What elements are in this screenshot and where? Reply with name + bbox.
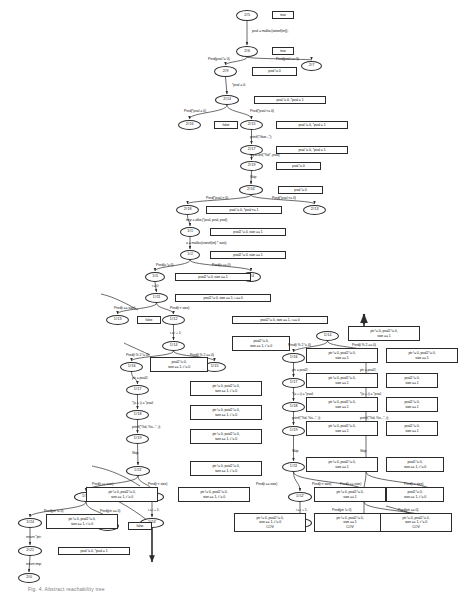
cfg-node[interactable]: 1#12 bbox=[162, 315, 185, 325]
abstraction-box: ptr != 0, pval2 != 0, size == 1, i != 0 … bbox=[380, 513, 452, 532]
cfg-node[interactable]: 1#5 bbox=[145, 272, 165, 282]
cfg-edge bbox=[227, 105, 252, 119]
abstraction-box: ptr != 0, pval2 != 0, size == 1, i != 0 bbox=[86, 487, 158, 502]
edge-label: return *ptr; bbox=[26, 536, 41, 540]
edge-label: pval = malloc(sizeof(int)); bbox=[252, 30, 288, 34]
cfg-node[interactable]: 1#24 bbox=[18, 518, 42, 528]
edge-label: printf("%d, %s...", i); bbox=[132, 426, 161, 430]
edge-label: Pred(pval == 0) bbox=[276, 58, 299, 62]
edge-label: Pred(i < size) bbox=[148, 483, 167, 487]
edge-label: Pred(i % 2 != 0) bbox=[126, 354, 149, 358]
edge-label: Skip bbox=[132, 452, 138, 456]
edge-label: printf("%d, %s...", i); bbox=[360, 417, 389, 421]
cfg-node[interactable]: 1#12' bbox=[288, 492, 312, 502]
cfg-node[interactable]: 1#19 bbox=[126, 434, 149, 444]
cfg-node[interactable]: 2#5 bbox=[236, 10, 258, 21]
cfg-node[interactable]: 2#21 bbox=[18, 546, 42, 556]
edge-label: Pred(ptr == 0) bbox=[398, 509, 418, 513]
abstraction-box: pval2 != 0, size == 1, i == 0 bbox=[175, 294, 271, 302]
abstraction-box: ptr != 0, pval2 != 0, size == 1, i != 0 bbox=[190, 461, 262, 476]
edge-label: Pred(a != 0) bbox=[156, 264, 173, 268]
cfg-node[interactable]: 1#11' bbox=[126, 466, 150, 476]
edge-label: Pred(i == size) bbox=[340, 483, 361, 487]
cfg-node[interactable]: 2#0 bbox=[18, 573, 40, 583]
abstraction-box: ptr != 0, pval2 != 0, size == 1 COV bbox=[314, 513, 386, 532]
cfg-node[interactable]: 1#14 bbox=[162, 341, 185, 351]
abstraction-box: pval2 != 0, size == 1, i != 0 bbox=[150, 357, 208, 372]
edge-label: Skip bbox=[360, 450, 366, 454]
edge-label: i = i + 1; bbox=[170, 332, 181, 336]
cfg-node[interactable]: 2#7 bbox=[301, 61, 322, 71]
abstraction-box: ptr != 0, pval2 != 0, size == 1 bbox=[306, 397, 378, 412]
edge-label: ptr = pval2; bbox=[360, 369, 376, 373]
abstraction-box: true bbox=[272, 11, 294, 19]
edge-label: printf("Give..."); bbox=[250, 136, 272, 140]
cfg-edge bbox=[294, 472, 301, 491]
edge-label: a = malloc(sizeof(int) * size); bbox=[186, 242, 227, 246]
edge-label: Pred(*pval <= 0) bbox=[250, 110, 274, 114]
edge-label: *(a + i) = *pval; bbox=[132, 402, 153, 406]
edge-label: Pred(a == 0) bbox=[212, 264, 230, 268]
cfg-node[interactable]: 1#16 bbox=[120, 362, 143, 372]
abstraction-box: pval != 0, *pval <= 1 bbox=[206, 206, 282, 214]
cfg-node[interactable]: 2#13 bbox=[303, 205, 326, 215]
edge-label: *(a + i) = *pval; bbox=[292, 393, 313, 397]
abstraction-box: ptr != 0, pval2 != 0, size == 1 bbox=[306, 457, 378, 472]
edge-label: Skip bbox=[250, 176, 256, 180]
cfg-node[interactable]: 1#19 bbox=[282, 426, 305, 436]
cfg-node[interactable]: 2#19 bbox=[240, 161, 263, 171]
abstraction-box: pval != 0 bbox=[252, 67, 297, 76]
cfg-node[interactable]: 1#11 bbox=[145, 293, 168, 303]
cfg-node[interactable]: 1#2 bbox=[180, 250, 200, 260]
edge-label: *pval = 0; bbox=[232, 84, 246, 88]
cfg-node[interactable]: 2#18 bbox=[176, 205, 199, 215]
cfg-node[interactable]: 1#16 bbox=[282, 353, 305, 363]
edge-label: myscanf("%d", pval); bbox=[250, 154, 280, 158]
edge-label: Skip bbox=[292, 450, 298, 454]
abstraction-box: ptr != 0, pval2 != 0, size == 1, i != 0 … bbox=[234, 513, 306, 532]
edge-label: *(a + i) = *pval; bbox=[360, 393, 381, 397]
abstraction-box: ptr != 0, pval2 != 0, size == 1 bbox=[306, 348, 378, 363]
cfg-node[interactable]: 1#1 bbox=[180, 227, 200, 237]
cfg-node[interactable]: 2#14' bbox=[239, 185, 263, 195]
abstraction-box: pval != 0 bbox=[278, 186, 323, 194]
edge-label: Pred(ptr != 0) bbox=[44, 510, 63, 514]
abstraction-box: ptr != 0, pval2 != 0, size == 1 bbox=[386, 348, 458, 363]
cfg-node[interactable]: 2#9 bbox=[214, 66, 237, 77]
edge-label: Pred(i < size) bbox=[170, 307, 189, 311]
edge-label: i = i + 1; bbox=[296, 509, 307, 513]
diagram-canvas: 2#52#62#72#92#142#162#152#172#192#14'2#1… bbox=[0, 0, 464, 602]
cfg-node[interactable]: 1#13 bbox=[106, 315, 129, 325]
abstraction-box: pval2 != 0, size == 1 bbox=[210, 251, 286, 259]
edge-label: printf("%d, %s...", i); bbox=[292, 417, 321, 421]
abstraction-box: pval != 0, *pval = 1 bbox=[276, 146, 348, 154]
edge-label: Pred(pval != 0) bbox=[208, 58, 230, 62]
edge-label: Pred(i < size) bbox=[312, 483, 331, 487]
cfg-edge bbox=[226, 77, 228, 94]
edge-label: Pred(i % 2 == 0) bbox=[190, 354, 214, 358]
abstraction-box: pval2 != 0, size == 1 bbox=[386, 373, 438, 388]
cfg-node[interactable]: 1#17 bbox=[282, 378, 305, 388]
edge-label: Pred(i == size) bbox=[114, 307, 135, 311]
edge-label: Pred(i == size) bbox=[92, 483, 113, 487]
figure-caption: Fig. 4. Abstract reachability tree bbox=[28, 586, 105, 592]
abstraction-box: ptr != 0, pval2 != 0, size == 1, i != 0 bbox=[190, 381, 262, 396]
cfg-node[interactable]: 2#15 bbox=[240, 120, 263, 130]
cfg-node[interactable]: 2#16 bbox=[178, 120, 201, 130]
cfg-node[interactable]: 1#11 bbox=[282, 462, 305, 472]
cfg-node[interactable]: 1#14 bbox=[316, 331, 339, 341]
edge-label: Pred(i == size) bbox=[256, 483, 277, 487]
edge-label: Pred(*pval <= 0) bbox=[272, 197, 296, 201]
abstraction-box: pval2 != 0, size == 1 bbox=[386, 397, 438, 412]
edge-label: Pred(*pval = 0) bbox=[184, 110, 206, 114]
cfg-node[interactable]: 2#14 bbox=[215, 95, 239, 105]
edge-label: Pred(ptr == 0) bbox=[100, 510, 120, 514]
cfg-node[interactable]: 2#6 bbox=[236, 46, 258, 57]
abstraction-box: false bbox=[128, 522, 152, 530]
abstraction-box: ptr != 0, pval2 != 0, size == 1, i != 0 bbox=[190, 405, 262, 420]
abstraction-box: pval != 0, *pval = 1 bbox=[58, 547, 130, 555]
cfg-node[interactable]: 1#18 bbox=[282, 402, 305, 412]
abstraction-box: false bbox=[137, 316, 161, 324]
cfg-node[interactable]: 1#18 bbox=[126, 410, 149, 420]
cfg-node[interactable]: 1#17 bbox=[126, 385, 149, 395]
